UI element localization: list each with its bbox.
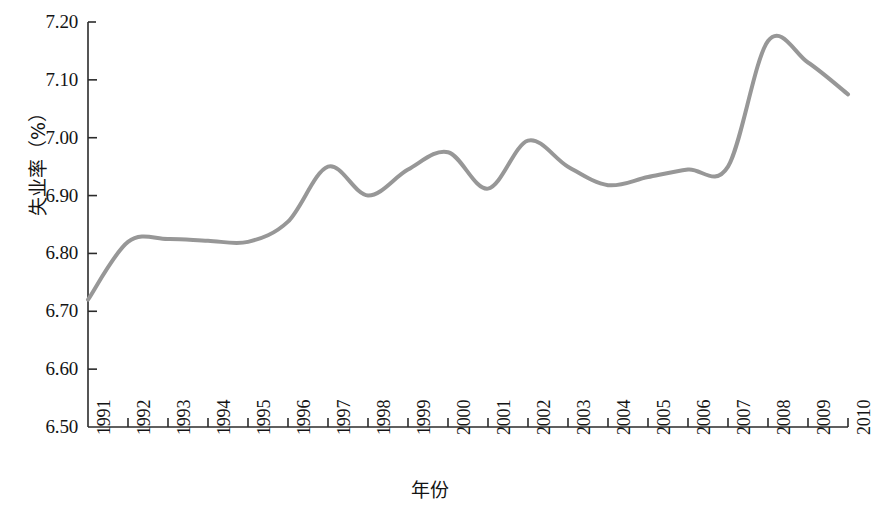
x-tick-label: 1997 <box>335 400 353 435</box>
x-tick-label: 2006 <box>695 400 713 435</box>
x-tick-label: 1998 <box>375 400 393 435</box>
x-tick-label: 2007 <box>735 400 753 435</box>
x-tick-label: 1995 <box>255 400 273 435</box>
x-tick-label: 2003 <box>575 400 593 435</box>
x-tick-label: 2010 <box>855 400 873 435</box>
y-axis-ticks <box>88 80 97 369</box>
x-tick-label: 2001 <box>495 400 513 435</box>
y-tick-label: 6.70 <box>12 301 78 320</box>
y-tick-label: 6.60 <box>12 359 78 378</box>
x-tick-label: 2009 <box>815 400 833 435</box>
y-axis-title: 失业率（%） <box>29 70 48 250</box>
x-tick-label: 1993 <box>175 400 193 435</box>
chart-axes <box>88 22 848 427</box>
x-tick-label: 2000 <box>455 400 473 435</box>
x-tick-label: 2008 <box>775 400 793 435</box>
x-tick-label: 2005 <box>655 400 673 435</box>
x-tick-label: 1999 <box>415 400 433 435</box>
x-tick-label: 2004 <box>615 400 633 435</box>
x-tick-label: 2002 <box>535 400 553 435</box>
x-axis-title: 年份 <box>0 481 860 500</box>
x-tick-label: 1991 <box>95 400 113 435</box>
y-tick-label: 7.20 <box>12 12 78 31</box>
unemployment-rate-line <box>88 36 848 300</box>
x-tick-label: 1996 <box>295 400 313 435</box>
x-tick-label: 1994 <box>215 400 233 435</box>
y-tick-label: 6.50 <box>12 417 78 436</box>
x-tick-label: 1992 <box>135 400 153 435</box>
